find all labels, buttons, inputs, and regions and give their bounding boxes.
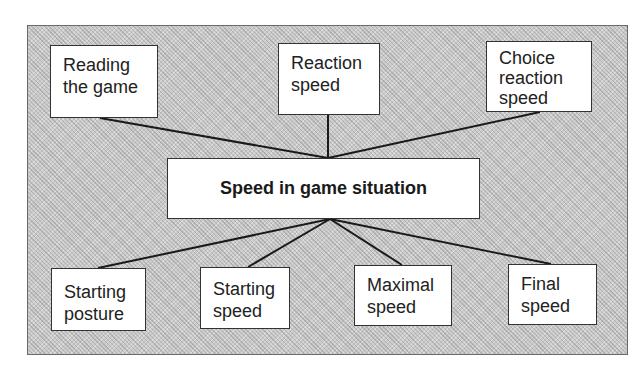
node-maximal-speed: Maximal speed: [354, 265, 452, 326]
node-reaction-speed: Reaction speed: [278, 43, 380, 115]
node-label: Reaction speed: [291, 52, 369, 96]
node-starting-speed: Starting speed: [200, 267, 290, 329]
node-final-speed: Final speed: [508, 264, 597, 325]
node-label: Reading the game: [63, 54, 147, 98]
link-choice-reaction-speed: [328, 112, 540, 158]
node-label: Starting posture: [64, 281, 135, 325]
node-label: Starting speed: [213, 278, 279, 322]
node-choice-reaction-speed: Choice reaction speed: [486, 41, 592, 112]
node-label: Final speed: [521, 273, 586, 317]
link-reading-the-game: [100, 118, 328, 158]
center-label: Speed in game situation: [220, 178, 427, 199]
link-starting-speed: [248, 219, 330, 267]
link-final-speed: [330, 219, 551, 264]
node-speed-in-game-situation: Speed in game situation: [167, 158, 480, 219]
node-label: Maximal speed: [367, 274, 441, 318]
node-starting-posture: Starting posture: [51, 268, 146, 331]
node-label: Choice reaction speed: [499, 48, 581, 108]
node-reading-the-game: Reading the game: [50, 45, 158, 118]
link-starting-posture: [98, 219, 330, 268]
